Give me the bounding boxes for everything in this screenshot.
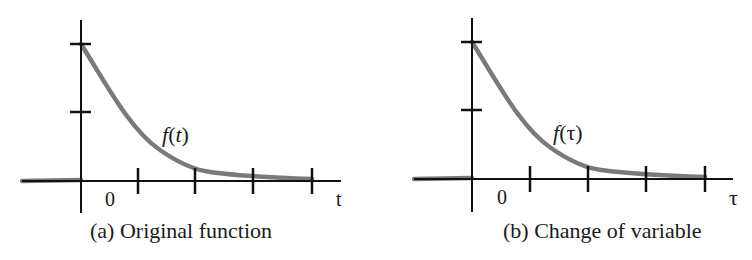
curve-label: f(τ) <box>553 120 583 145</box>
figure: f(t) 0 t (a) Original function f(τ) 0 τ … <box>0 0 752 260</box>
panel-b: f(τ) 0 τ (b) Change of variable <box>414 18 738 243</box>
curve-f-tau <box>414 42 705 179</box>
x-axis-label: t <box>336 188 342 210</box>
curve-f-t <box>22 44 312 181</box>
caption: (b) Change of variable <box>503 218 702 243</box>
origin-label: 0 <box>497 186 507 208</box>
origin-label: 0 <box>105 188 115 210</box>
x-axis-label: τ <box>729 185 738 210</box>
caption: (a) Original function <box>90 218 272 243</box>
curve-label: f(t) <box>162 122 189 147</box>
panel-a: f(t) 0 t (a) Original function <box>22 20 342 243</box>
